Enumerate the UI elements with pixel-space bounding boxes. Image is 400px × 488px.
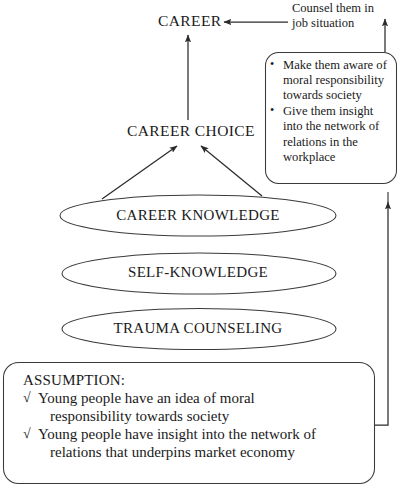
assumption-item: √ Young people have insight into the net… <box>23 426 367 461</box>
assumption-item-line-1: Young people have an idea of moral <box>38 390 255 406</box>
assumption-title: ASSUMPTION: <box>23 372 367 389</box>
assumption-list: √ Young people have an idea of moral res… <box>23 390 367 462</box>
check-mark-icon: √ <box>23 390 31 407</box>
node-self-knowledge-label: SELF-KNOWLEDGE <box>60 264 336 281</box>
bullet-box-item: Give them insight into the network of re… <box>267 104 393 164</box>
assumption-item-line-1: Young people have insight into the netwo… <box>38 426 316 442</box>
bullet-box-list: Make them aware of moral responsibility … <box>267 58 393 165</box>
check-mark-icon: √ <box>23 426 31 443</box>
assumption-item: √ Young people have an idea of moral res… <box>23 390 367 425</box>
counsel-note-line-2: job situation <box>292 16 396 31</box>
diagram-canvas: CAREER CAREER CHOICE CAREER KNOWLEDGE SE… <box>0 0 400 488</box>
assumption-box: ASSUMPTION: √ Young people have an idea … <box>3 362 375 484</box>
arrow-knowledge-right-to-career-choice <box>201 146 262 196</box>
arrow-assumption-to-bullet-box <box>375 202 388 425</box>
node-career-label: CAREER <box>158 12 222 29</box>
bullet-box: Make them aware of moral responsibility … <box>265 52 397 184</box>
bullet-box-item-text: Give them insight into the network of re… <box>283 104 379 163</box>
assumption-item-line-2: responsibility towards society <box>38 408 367 426</box>
bullet-box-item: Make them aware of moral responsibility … <box>267 58 393 103</box>
counsel-note-line-1: Counsel them in <box>292 1 396 16</box>
bullet-box-item-text: Make them aware of moral responsibility … <box>283 58 387 102</box>
node-career-knowledge-label: CAREER KNOWLEDGE <box>60 207 336 224</box>
assumption-item-line-2: relations that underpins market economy <box>38 444 367 462</box>
node-career-choice-label: CAREER CHOICE <box>127 122 255 139</box>
arrow-knowledge-left-to-career-choice <box>102 146 177 199</box>
node-trauma-counseling-label: TRAUMA COUNSELING <box>60 320 336 337</box>
counsel-note: Counsel them in job situation <box>292 1 396 31</box>
